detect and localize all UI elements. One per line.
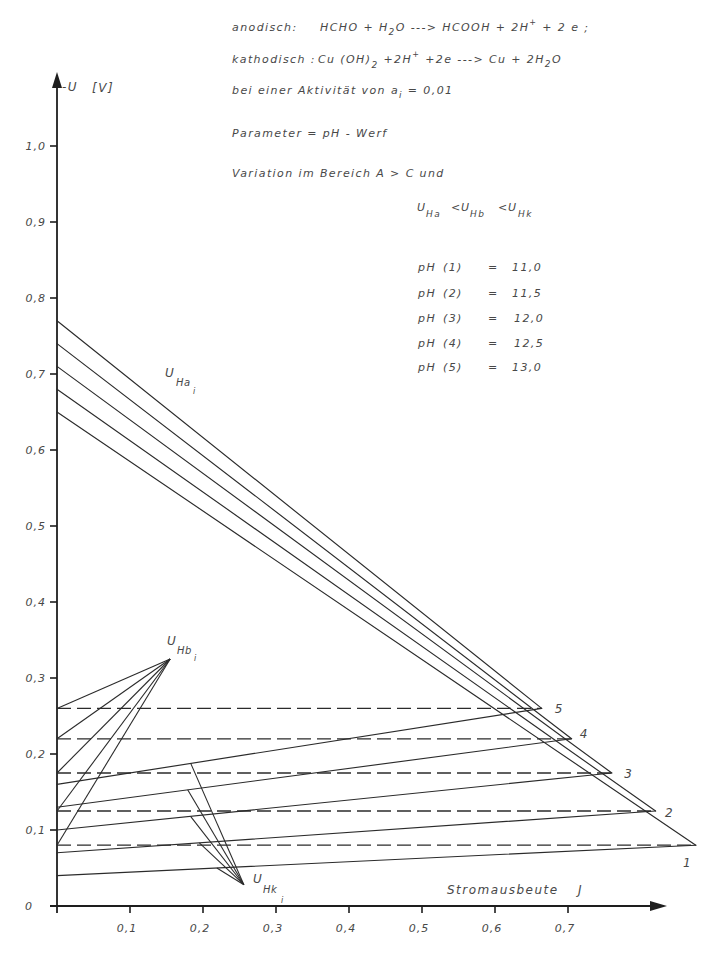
ph-value: 12,5 bbox=[514, 337, 544, 350]
u-hk-leader-line bbox=[199, 843, 244, 885]
ph-label: pH bbox=[417, 287, 436, 300]
activity-value: = 0,01 bbox=[403, 84, 454, 97]
u-ha-4-line bbox=[57, 344, 572, 739]
u-symbol: U bbox=[165, 366, 174, 380]
x-tick-label: 0,2 bbox=[190, 922, 211, 935]
equals-sign: = bbox=[488, 312, 499, 325]
activity-text: bei einer Aktivität von a bbox=[232, 84, 399, 97]
curve-number-4: 4 bbox=[580, 727, 588, 741]
u-hk-leader-line bbox=[191, 816, 244, 884]
index-subscript: i bbox=[281, 896, 284, 905]
u-hk-4-line bbox=[57, 739, 572, 807]
subscript: 2 bbox=[545, 59, 552, 69]
u-hk-2-line bbox=[57, 811, 656, 853]
ph-value: 13,0 bbox=[512, 361, 542, 374]
subscript: Hk bbox=[518, 209, 533, 219]
anodic-reaction: anodisch:HCHO + H2O ---> HCOOH + 2H+ + 2… bbox=[232, 18, 589, 37]
y-tick-label: 0,7 bbox=[26, 368, 47, 381]
equals-sign: = bbox=[488, 261, 499, 274]
index-subscript: i bbox=[193, 387, 196, 396]
subscript: Ha bbox=[176, 377, 191, 388]
variation-note: Variation im Bereich A > C und bbox=[232, 167, 445, 180]
x-axis-arrow-icon bbox=[650, 901, 667, 911]
y-axis-symbol: -U bbox=[62, 80, 78, 94]
subscript: 2 bbox=[371, 60, 378, 70]
activity-note: bei einer Aktivität von ai = 0,01 bbox=[232, 84, 453, 100]
subscript: Ha bbox=[426, 209, 441, 219]
curve-label-u-ha: U Ha i bbox=[165, 366, 196, 396]
curve-label-u-hb: U Hb i bbox=[167, 634, 197, 663]
voltage-order: UHa<UHb<UHk bbox=[417, 201, 533, 219]
x-tick-label: 0,1 bbox=[117, 922, 138, 935]
ph-row-5: pH (5) = 13,0 bbox=[417, 361, 542, 374]
anodic-eq-part: O ---> HCOOH + 2H bbox=[396, 21, 530, 34]
u-hk-leader-line bbox=[188, 790, 244, 885]
anodic-label: anodisch: bbox=[232, 21, 298, 34]
superscript: + bbox=[412, 50, 420, 59]
y-tick-label: 0,5 bbox=[26, 520, 47, 533]
u-hk-1-line bbox=[57, 845, 696, 875]
anodic-eq-part: HCHO + H bbox=[320, 21, 389, 34]
equals-sign: = bbox=[488, 287, 499, 300]
x-tick-label: 0,3 bbox=[263, 922, 284, 935]
x-tick-label: 0,4 bbox=[336, 922, 357, 935]
y-tick-label: 0,8 bbox=[26, 292, 47, 305]
y-tick-label: 0,1 bbox=[26, 824, 47, 837]
ph-index: (2) bbox=[443, 287, 463, 300]
u-symbol: U bbox=[167, 634, 176, 648]
ph-label: pH bbox=[417, 361, 436, 374]
y-axis-unit: [V] bbox=[92, 81, 114, 95]
u-hk-leader-line bbox=[191, 763, 244, 885]
u-ha-1-line bbox=[57, 412, 696, 845]
subscript: Hk bbox=[263, 884, 278, 895]
y-tick-label: 0,4 bbox=[26, 596, 47, 609]
ph-value: 11,5 bbox=[512, 287, 542, 300]
y-tick-label: 0,6 bbox=[26, 444, 47, 457]
y-tick-label: 0,3 bbox=[26, 672, 47, 685]
ph-label: pH bbox=[417, 337, 436, 350]
u-hb-leader-line bbox=[57, 659, 170, 811]
ph-row-4: pH (4) = 12,5 bbox=[417, 337, 544, 350]
u-ha-2-line bbox=[57, 389, 656, 811]
curve-number-1: 1 bbox=[683, 856, 691, 870]
y-tick-label: 1,0 bbox=[26, 140, 47, 153]
ph-index: (3) bbox=[443, 312, 463, 325]
u-hb-leader-line bbox=[57, 659, 170, 845]
superscript: + bbox=[529, 18, 537, 27]
cathodic-eq-part: +2e ---> Cu + 2H bbox=[420, 53, 545, 66]
ph-table: pH (1) = 11,0 pH (2) = 11,5 pH (3) = 12,… bbox=[417, 261, 544, 374]
ph-value: 11,0 bbox=[512, 261, 542, 274]
u-ha-3-line bbox=[57, 366, 612, 773]
curve-number-3: 3 bbox=[624, 767, 632, 781]
ph-index: (4) bbox=[443, 337, 463, 350]
chart-canvas: anodisch:HCHO + H2O ---> HCOOH + 2H+ + 2… bbox=[0, 0, 715, 962]
u-hb-leader-line bbox=[57, 659, 170, 708]
x-tick-label: 0,6 bbox=[482, 922, 503, 935]
subscript: 2 bbox=[389, 27, 396, 37]
x-axis-label: Stromausbeute bbox=[447, 883, 559, 897]
y-tick-label: 0,9 bbox=[26, 216, 47, 229]
cathodic-reaction: kathodisch :Cu (OH)2 +2H+ +2e ---> Cu + … bbox=[232, 50, 562, 70]
ph-index: (5) bbox=[443, 361, 463, 374]
subscript: Hb bbox=[177, 645, 192, 656]
x-axis-symbol: J bbox=[576, 883, 583, 897]
plot-area bbox=[57, 321, 696, 876]
y-tick-label: 0,2 bbox=[26, 748, 47, 761]
cathodic-eq-part: Cu (OH) bbox=[318, 53, 371, 66]
subscript: Hb bbox=[470, 209, 485, 219]
axes: -U [V] 0 Stromausbeute J 0,10,20,30,40,5… bbox=[25, 72, 667, 935]
ph-row-3: pH (3) = 12,0 bbox=[417, 312, 544, 325]
ph-label: pH bbox=[417, 312, 436, 325]
x-tick-label: 0,5 bbox=[409, 922, 430, 935]
anodic-eq-part: + 2 e ; bbox=[537, 21, 589, 34]
equals-sign: = bbox=[488, 361, 499, 374]
cathodic-label: kathodisch : bbox=[232, 53, 316, 66]
origin-label: 0 bbox=[25, 900, 33, 913]
index-subscript: i bbox=[194, 654, 197, 663]
u-symbol: U bbox=[253, 872, 262, 886]
cathodic-eq-part: O bbox=[552, 53, 562, 66]
u-hb-leader-line bbox=[57, 659, 170, 739]
header-text: anodisch:HCHO + H2O ---> HCOOH + 2H+ + 2… bbox=[232, 18, 589, 219]
ph-value: 12,0 bbox=[514, 312, 544, 325]
ph-label: pH bbox=[417, 261, 436, 274]
